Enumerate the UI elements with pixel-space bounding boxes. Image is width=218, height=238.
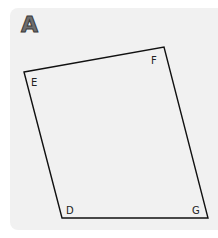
vertex-label-f: F [151,55,157,66]
vertex-label-e: E [31,77,37,88]
vertex-label-g: G [192,205,200,216]
quadrilateral-figure: E F D G [0,0,218,238]
vertex-label-d: D [66,205,74,216]
quadrilateral-defg [24,47,208,218]
